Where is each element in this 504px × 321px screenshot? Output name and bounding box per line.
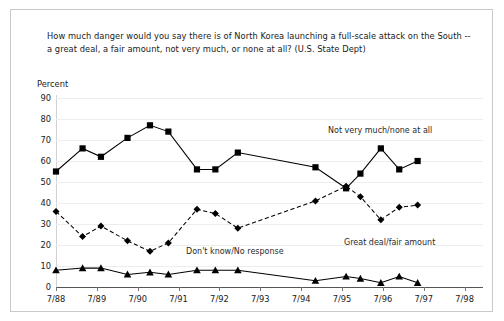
data-point-s2-13 <box>395 273 403 280</box>
y-tick-label-30: 30 <box>40 219 51 229</box>
chart-frame: How much danger would you say there is o… <box>10 9 493 312</box>
x-tick-mark-8 <box>383 287 384 291</box>
data-point-s1-3 <box>124 237 131 244</box>
x-tick-mark-10 <box>465 287 466 291</box>
data-point-s0-9 <box>312 164 318 170</box>
data-point-s0-11 <box>357 171 363 177</box>
annotation-dont-know: Don't know/No response <box>186 247 284 256</box>
y-tick-label-80: 80 <box>40 114 51 124</box>
data-point-s2-14 <box>414 279 422 286</box>
x-tick-label-7-93: 7/93 <box>251 294 270 304</box>
x-tick-label-7-89: 7/89 <box>88 294 107 304</box>
x-tick-mark-0 <box>56 287 57 291</box>
x-tick-label-7-98: 7/98 <box>455 294 474 304</box>
x-tick-label-7-97: 7/97 <box>414 294 433 304</box>
x-tick-label-7-91: 7/91 <box>169 294 188 304</box>
data-point-s0-0 <box>53 168 59 174</box>
data-point-s2-4 <box>146 269 154 276</box>
data-point-s0-4 <box>147 122 153 128</box>
x-tick-label-7-95: 7/95 <box>333 294 352 304</box>
data-point-s0-12 <box>378 145 384 151</box>
x-tick-mark-5 <box>260 287 261 291</box>
x-tick-label-7-96: 7/96 <box>374 294 393 304</box>
data-point-s1-8 <box>234 225 241 232</box>
chart-question-text: How much danger would you say there is o… <box>47 30 477 55</box>
data-point-s1-9 <box>312 197 319 204</box>
x-tick-mark-6 <box>301 287 302 291</box>
gridline-0 <box>56 287 483 288</box>
data-point-s1-13 <box>396 204 403 211</box>
x-tick-mark-7 <box>342 287 343 291</box>
annotation-not-very-much: Not very much/none at all <box>328 126 432 135</box>
y-tick-label-70: 70 <box>40 135 51 145</box>
data-point-s0-2 <box>98 154 104 160</box>
data-point-s1-1 <box>79 233 86 240</box>
x-tick-label-7-94: 7/94 <box>292 294 311 304</box>
plot-area: 0102030405060708090 7/887/897/907/917/92… <box>56 98 483 287</box>
x-tick-label-7-90: 7/90 <box>128 294 147 304</box>
x-tick-mark-4 <box>219 287 220 291</box>
data-point-s0-7 <box>212 166 218 172</box>
data-point-s0-1 <box>79 145 85 151</box>
data-point-s1-2 <box>97 223 104 230</box>
y-axis-title: Percent <box>37 79 68 89</box>
data-point-s1-4 <box>146 248 153 255</box>
y-tick-label-50: 50 <box>40 177 51 187</box>
data-point-s0-3 <box>124 135 130 141</box>
data-point-s1-7 <box>212 210 219 217</box>
y-tick-label-60: 60 <box>40 156 51 166</box>
data-point-s0-5 <box>165 129 171 135</box>
x-tick-mark-9 <box>424 287 425 291</box>
x-tick-mark-1 <box>97 287 98 291</box>
data-point-s0-6 <box>194 166 200 172</box>
y-tick-label-40: 40 <box>40 198 51 208</box>
x-tick-mark-2 <box>138 287 139 291</box>
data-point-s2-10 <box>342 273 350 280</box>
y-tick-label-10: 10 <box>40 261 51 271</box>
data-point-s0-8 <box>235 150 241 156</box>
data-point-s0-13 <box>396 166 402 172</box>
data-point-s0-14 <box>415 158 421 164</box>
x-tick-mark-3 <box>179 287 180 291</box>
y-tick-label-90: 90 <box>40 93 51 103</box>
x-tick-label-7-92: 7/92 <box>210 294 229 304</box>
y-tick-label-20: 20 <box>40 240 51 250</box>
data-point-s1-14 <box>414 202 421 209</box>
y-tick-label-0: 0 <box>46 282 51 292</box>
annotation-great-deal: Great deal/fair amount <box>344 238 435 247</box>
x-tick-label-7-88: 7/88 <box>47 294 66 304</box>
